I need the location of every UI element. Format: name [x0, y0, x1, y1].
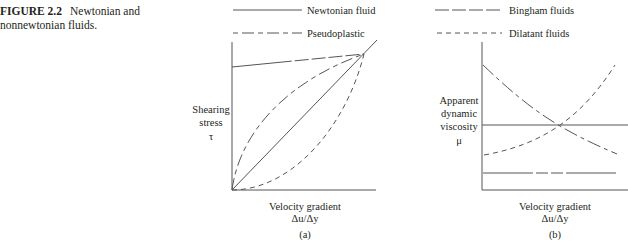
panel-b-tag: (b) [549, 229, 562, 241]
panel-b-ylabel-line4: μ [456, 135, 462, 146]
panel-b-pseudoplastic [483, 65, 617, 154]
legend-pseudoplastic-label: Pseudoplastic [307, 28, 365, 39]
panel-b-dilatant [484, 65, 615, 155]
panel-b-xlabel-line2: Δu/Δy [542, 213, 570, 224]
legend-bingham-label: Bingham fluids [509, 5, 574, 16]
panel-a-ylabel-line1: Shearing [192, 104, 230, 115]
panel-b-ylabel-line3: viscosity [440, 121, 478, 132]
panel-a-xlabel-line2: Δu/Δy [292, 213, 320, 224]
legend-newtonian-label: Newtonian fluid [307, 5, 376, 16]
figure-svg: Newtonian fluid Pseudoplastic Bingham fl… [0, 0, 628, 243]
panel-a-xlabel-line1: Velocity gradient [269, 201, 341, 212]
legend-dilatant-label: Dilatant fluids [509, 28, 569, 39]
panel-b-ylabel-line2: dynamic [441, 108, 477, 119]
panel-a-tag: (a) [299, 229, 311, 241]
panel-a-newtonian [232, 40, 377, 190]
panel-a-ylabel-line3: τ [209, 131, 213, 142]
panel-a-ylabel-line2: stress [199, 117, 222, 128]
panel-b-ylabel-line1: Apparent [439, 95, 478, 106]
panel-b-xlabel-line1: Velocity gradient [519, 201, 591, 212]
panel-a-bingham [232, 54, 364, 67]
